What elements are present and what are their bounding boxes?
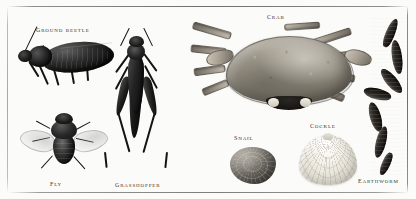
specimen-earthworm	[368, 18, 412, 176]
specimen-plate: Ground beetle Fly Grasshopper	[0, 0, 416, 199]
worm-annulations	[370, 18, 404, 176]
grasshopper-tarsus-right	[164, 152, 167, 168]
grasshopper-tibia-left	[117, 111, 130, 152]
caption-grasshopper: Grasshopper	[115, 180, 160, 189]
grasshopper-tibia-right	[142, 112, 155, 153]
fly-leg-5	[41, 155, 53, 169]
grasshopper-tarsus-left	[104, 152, 107, 168]
crab-leg-top-spar	[284, 21, 320, 30]
specimen-snail	[227, 143, 279, 187]
fly-leg-1	[36, 120, 51, 129]
crab-tooth-left	[268, 98, 279, 107]
frame-rule-top	[8, 6, 408, 7]
fly-leg-2	[76, 121, 91, 130]
caption-ground-beetle: Ground beetle	[36, 25, 90, 34]
caption-earthworm: Earthworm	[358, 176, 399, 185]
grasshopper-abdomen	[128, 54, 144, 114]
specimen-crab	[206, 22, 372, 118]
frame-rule-bottom	[8, 192, 408, 193]
specimen-cockle	[297, 132, 359, 188]
cockle-growth-lines	[299, 135, 357, 185]
caption-snail: Snail	[234, 133, 254, 142]
specimen-grasshopper	[96, 24, 182, 182]
caption-cockle: Cockle	[310, 121, 336, 130]
fly-leg-6	[73, 156, 85, 170]
grasshopper-antenna-right	[143, 28, 153, 47]
frame-rule-left	[7, 6, 8, 193]
caption-crab: Crab	[267, 12, 285, 21]
fly-abdomen-bands	[54, 138, 74, 162]
cockle-umbo	[323, 133, 333, 140]
grasshopper-femur-right	[141, 76, 159, 117]
crab-leg-left-4	[201, 79, 230, 97]
crab-tooth-right	[300, 98, 311, 107]
crab-leg-left-3	[193, 64, 226, 76]
caption-fly: Fly	[50, 179, 62, 188]
fly-head	[55, 113, 73, 124]
grasshopper-head	[129, 36, 144, 47]
crab-leg-left-1	[192, 21, 233, 40]
snail-whorl-inner	[243, 156, 262, 172]
specimen-fly	[26, 112, 102, 180]
